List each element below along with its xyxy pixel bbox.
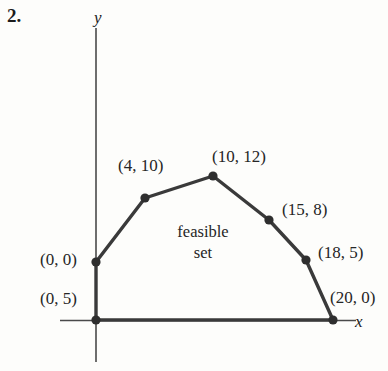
vertex-dot-10-12 <box>208 171 217 180</box>
vertex-label-20-0: (20, 0) <box>330 289 375 306</box>
feasible-set-annotation-line1: feasible <box>158 222 248 243</box>
figure-container: 2. (0, 5) (0, 0) (4, 10) (10, 12) (15, 8… <box>0 0 388 371</box>
feasible-set-annotation-line2: set <box>158 243 248 264</box>
vertex-dot-20-0 <box>328 315 337 324</box>
vertex-dot-18-5 <box>301 255 310 264</box>
vertex-label-15-8: (15, 8) <box>282 201 327 218</box>
vertex-dot-4-10 <box>140 193 149 202</box>
vertex-label-0-0: (0, 0) <box>40 251 77 268</box>
vertex-dot-15-8 <box>264 215 273 224</box>
vertex-label-0-5: (0, 5) <box>40 290 77 307</box>
x-axis-label: x <box>355 312 363 332</box>
vertex-dot-0-0 <box>91 315 100 324</box>
vertex-label-18-5: (18, 5) <box>318 244 363 261</box>
y-axis-label: y <box>94 8 102 28</box>
feasible-set-plot <box>0 0 388 371</box>
vertex-label-10-12: (10, 12) <box>212 148 266 165</box>
feasible-set-annotation: feasible set <box>158 222 248 263</box>
vertex-dot-0-5 <box>91 257 100 266</box>
vertex-label-4-10: (4, 10) <box>118 157 163 174</box>
